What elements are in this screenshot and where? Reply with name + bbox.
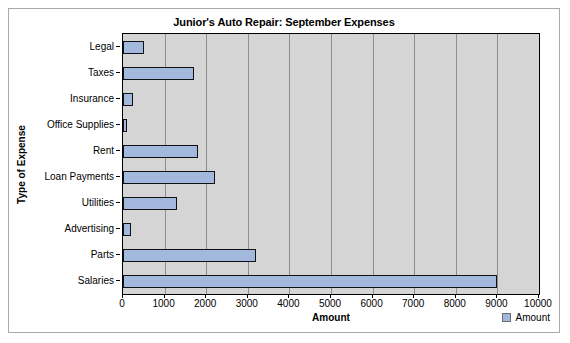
x-tick-label-2000: 2000 — [194, 298, 216, 309]
legend-label-amount: Amount — [516, 312, 550, 323]
bar-salaries[interactable] — [123, 275, 497, 288]
y-tick-mark — [116, 176, 120, 177]
x-tick-mark — [413, 294, 414, 298]
x-tick-mark — [122, 294, 123, 298]
x-axis-title: Amount — [122, 312, 540, 323]
y-tick-mark — [116, 98, 120, 99]
y-tick-mark — [116, 254, 120, 255]
y-tick-label-taxes: Taxes — [88, 67, 114, 78]
legend-swatch-amount — [502, 313, 511, 322]
legend: Amount — [502, 312, 550, 323]
x-tick-mark — [496, 294, 497, 298]
x-tick-label-1000: 1000 — [152, 298, 174, 309]
y-tick-mark — [116, 280, 120, 281]
y-tick-mark — [116, 202, 120, 203]
x-tick-label-0: 0 — [119, 298, 125, 309]
bar-taxes[interactable] — [123, 67, 194, 80]
x-tick-mark — [372, 294, 373, 298]
bar-row — [123, 171, 539, 184]
y-tick-mark — [116, 150, 120, 151]
bar-row — [123, 145, 539, 158]
y-tick-label-utilities: Utilities — [82, 197, 114, 208]
y-tick-label-loan-payments: Loan Payments — [45, 171, 115, 182]
bar-utilities[interactable] — [123, 197, 177, 210]
x-tick-label-4000: 4000 — [277, 298, 299, 309]
bar-row — [123, 93, 539, 106]
y-tick-label-legal: Legal — [90, 41, 114, 52]
bar-row — [123, 119, 539, 132]
bar-loan-payments[interactable] — [123, 171, 215, 184]
y-axis-tick-labels: LegalTaxesInsuranceOffice SuppliesRentLo… — [9, 33, 119, 295]
x-tick-label-7000: 7000 — [402, 298, 424, 309]
x-tick-mark — [164, 294, 165, 298]
y-tick-mark — [116, 72, 120, 73]
y-tick-label-advertising: Advertising — [65, 223, 114, 234]
bar-advertising[interactable] — [123, 223, 131, 236]
x-tick-label-8000: 8000 — [444, 298, 466, 309]
x-tick-mark — [538, 294, 539, 298]
bar-rent[interactable] — [123, 145, 198, 158]
y-tick-label-parts: Parts — [91, 249, 114, 260]
bar-row — [123, 197, 539, 210]
x-tick-label-6000: 6000 — [360, 298, 382, 309]
bar-parts[interactable] — [123, 249, 256, 262]
y-tick-mark — [116, 46, 120, 47]
x-tick-label-3000: 3000 — [236, 298, 258, 309]
plot-area — [122, 33, 540, 295]
y-tick-mark — [116, 228, 120, 229]
x-tick-mark — [288, 294, 289, 298]
bar-row — [123, 275, 539, 288]
bars-layer — [123, 34, 539, 294]
x-tick-label-9000: 9000 — [485, 298, 507, 309]
bar-legal[interactable] — [123, 41, 144, 54]
y-tick-mark — [116, 124, 120, 125]
bar-row — [123, 41, 539, 54]
bar-insurance[interactable] — [123, 93, 133, 106]
x-tick-mark — [455, 294, 456, 298]
bar-office-supplies[interactable] — [123, 119, 127, 132]
x-tick-mark — [205, 294, 206, 298]
bar-row — [123, 223, 539, 236]
bar-row — [123, 249, 539, 262]
x-tick-mark — [247, 294, 248, 298]
y-tick-label-salaries: Salaries — [78, 275, 114, 286]
x-axis-tick-labels: 0100020003000400050006000700080009000100… — [122, 298, 540, 312]
y-tick-label-rent: Rent — [93, 145, 114, 156]
x-tick-mark — [330, 294, 331, 298]
y-tick-label-insurance: Insurance — [70, 93, 114, 104]
chart-frame: Junior's Auto Repair: September Expenses… — [8, 8, 560, 333]
x-tick-label-10000: 10000 — [524, 298, 552, 309]
x-tick-label-5000: 5000 — [319, 298, 341, 309]
y-tick-label-office-supplies: Office Supplies — [47, 119, 114, 130]
chart-title: Junior's Auto Repair: September Expenses — [9, 16, 559, 28]
bar-row — [123, 67, 539, 80]
